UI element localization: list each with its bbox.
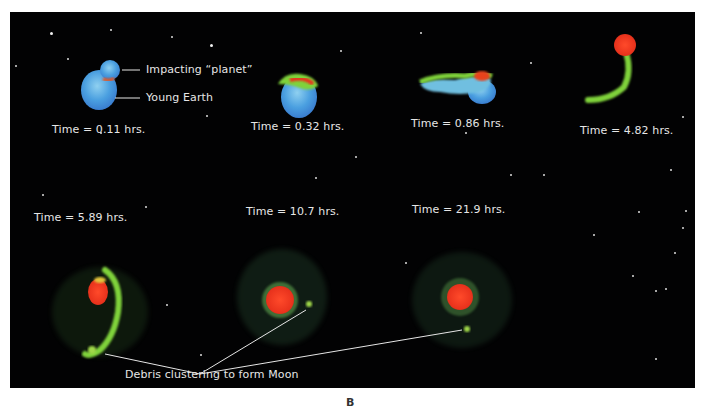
time-label-0-86: Time = 0.86 hrs. <box>411 117 504 130</box>
simulation-frames <box>10 12 695 388</box>
time-label-0-11: Time = 0.11 hrs. <box>52 123 145 136</box>
time-label-10-7: Time = 10.7 hrs. <box>246 205 339 218</box>
impactor-annotation: Impacting “planet” <box>146 63 253 76</box>
simulation-panel: Impacting “planet” Young Earth Time = 0.… <box>10 12 695 388</box>
frame-4-82 <box>588 34 636 100</box>
time-label-0-32: Time = 0.32 hrs. <box>251 120 344 133</box>
frame-0-86 <box>420 71 496 104</box>
panel-label: B <box>346 396 354 409</box>
frame-0-11 <box>81 60 140 110</box>
earth-annotation: Young Earth <box>146 91 213 104</box>
frame-0-32 <box>278 74 318 118</box>
frame-10-7 <box>200 249 327 374</box>
time-label-4-82: Time = 4.82 hrs. <box>580 124 673 137</box>
debris-annotation: Debris clustering to form Moon <box>125 368 299 381</box>
time-label-5-89: Time = 5.89 hrs. <box>34 211 127 224</box>
frame-5-89 <box>52 267 200 374</box>
time-label-21-9: Time = 21.9 hrs. <box>412 203 505 216</box>
